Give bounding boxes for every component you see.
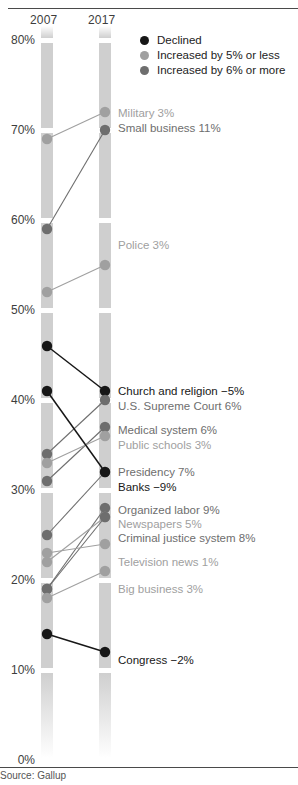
data-point-end[interactable] xyxy=(100,386,110,396)
data-point-end[interactable] xyxy=(100,431,110,441)
data-point-start[interactable] xyxy=(42,449,52,459)
series-label: Church and religion −5% xyxy=(118,385,244,397)
data-point-end[interactable] xyxy=(100,539,110,549)
data-point-end[interactable] xyxy=(100,503,110,513)
slope-line xyxy=(47,472,105,535)
data-point-start[interactable] xyxy=(42,530,52,540)
slope-line xyxy=(47,265,105,292)
data-point-end[interactable] xyxy=(100,512,110,522)
series-label: Big business 3% xyxy=(118,583,203,595)
data-point-end[interactable] xyxy=(100,260,110,270)
data-point-end[interactable] xyxy=(100,125,110,135)
legend-label-increased-small: Increased by 5% or less xyxy=(157,49,280,61)
slope-line xyxy=(47,517,105,562)
series-label: Criminal justice system 8% xyxy=(118,532,255,544)
data-point-end[interactable] xyxy=(100,422,110,432)
data-point-end[interactable] xyxy=(100,467,110,477)
series-label: Congress −2% xyxy=(118,654,194,666)
slope-line xyxy=(47,346,105,391)
legend-item-increased-big: Increased by 6% or more xyxy=(140,63,285,77)
slope-line xyxy=(47,400,105,454)
series-label: Banks −9% xyxy=(118,481,177,493)
legend: Declined Increased by 5% or less Increas… xyxy=(140,33,285,78)
series-label: Television news 1% xyxy=(118,556,218,568)
slope-line xyxy=(47,130,105,229)
series-label: Public schools 3% xyxy=(118,439,211,451)
slope-line xyxy=(47,544,105,553)
data-point-start[interactable] xyxy=(42,287,52,297)
data-point-start[interactable] xyxy=(42,629,52,639)
data-point-end[interactable] xyxy=(100,647,110,657)
legend-item-increased-small: Increased by 5% or less xyxy=(140,48,285,62)
data-point-start[interactable] xyxy=(42,593,52,603)
legend-dot-declined xyxy=(140,36,149,45)
series-label: Military 3% xyxy=(118,107,174,119)
slope-line xyxy=(47,391,105,472)
slope-line xyxy=(47,571,105,598)
slope-line xyxy=(47,634,105,652)
series-label: Organized labor 9% xyxy=(118,504,220,516)
slope-line xyxy=(47,427,105,481)
slope-line xyxy=(47,112,105,139)
data-point-start[interactable] xyxy=(42,386,52,396)
series-label: Presidency 7% xyxy=(118,466,195,478)
data-point-end[interactable] xyxy=(100,107,110,117)
data-point-start[interactable] xyxy=(42,341,52,351)
data-point-start[interactable] xyxy=(42,557,52,567)
data-point-end[interactable] xyxy=(100,395,110,405)
data-point-end[interactable] xyxy=(100,566,110,576)
legend-label-increased-big: Increased by 6% or more xyxy=(157,64,285,76)
series-label: Medical system 6% xyxy=(118,424,217,436)
series-label: U.S. Supreme Court 6% xyxy=(118,400,241,412)
legend-label-declined: Declined xyxy=(157,34,202,46)
data-point-start[interactable] xyxy=(42,548,52,558)
data-point-start[interactable] xyxy=(42,476,52,486)
data-point-start[interactable] xyxy=(42,584,52,594)
legend-dot-increased-small xyxy=(140,51,149,60)
data-point-start[interactable] xyxy=(42,224,52,234)
data-point-start[interactable] xyxy=(42,134,52,144)
series-label: Police 3% xyxy=(118,239,169,251)
slope-line xyxy=(47,517,105,589)
data-point-start[interactable] xyxy=(42,458,52,468)
series-label: Small business 11% xyxy=(118,122,221,134)
legend-dot-increased-big xyxy=(140,66,149,75)
bottom-rule xyxy=(0,767,298,768)
source-note: Source: Gallup xyxy=(0,770,66,781)
legend-item-declined: Declined xyxy=(140,33,285,47)
series-label: Newspapers 5% xyxy=(118,518,202,530)
slopegraph-chart: 2007 2017 80%70%60%50%40%30%20%10%0% Mil… xyxy=(0,0,298,785)
